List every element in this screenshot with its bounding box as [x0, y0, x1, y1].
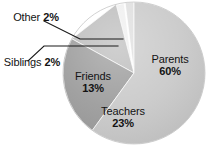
callout-label-other: Other 2%: [10, 12, 62, 24]
pie-chart: Parents 60% Teachers 23% Friends 13% Oth…: [0, 0, 214, 153]
callout-label-siblings-name: Siblings: [4, 56, 42, 68]
pie-shading: [63, 2, 205, 144]
callout-label-siblings: Siblings 2%: [1, 57, 63, 69]
callout-label-other-value: 2%: [43, 11, 59, 23]
callout-label-siblings-value: 2%: [45, 56, 61, 68]
pie-slices: [63, 2, 205, 144]
callout-label-other-name: Other: [13, 11, 40, 23]
